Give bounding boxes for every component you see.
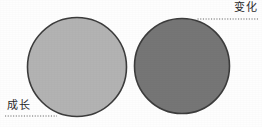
figure-svg: [0, 0, 262, 127]
change-label: 变化: [234, 1, 257, 14]
left-circle: [28, 18, 127, 117]
figure-canvas: 变化 成长: [0, 0, 262, 127]
growth-label: 成长: [7, 99, 30, 112]
right-circle: [135, 19, 230, 114]
